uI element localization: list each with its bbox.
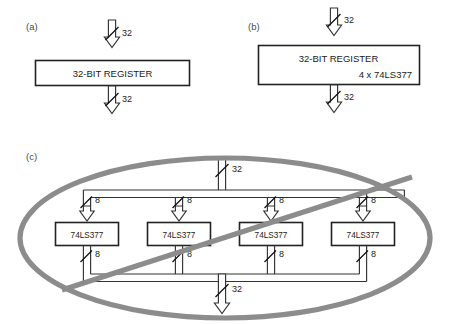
chip-4-input-width: 8 [371,195,376,205]
panel-c-chip-output-buses: 8 8 8 8 [81,246,377,282]
chip-3-label: 74LS377 [255,231,288,240]
figure-root: (a) 32 32-BIT REGISTER 32 (b) [0,0,449,324]
panel-a-output-bus-label: 32 [122,94,132,104]
chip-3-input-width: 8 [279,195,284,205]
panel-b-label: (b) [248,21,260,32]
chip-1-input-width: 8 [95,195,100,205]
chip-box-2: 74LS377 [148,223,211,246]
panel-c-input-bus: 32 [216,158,243,190]
chip-4-output-width: 8 [371,249,376,259]
panel-c-output-bus-label: 32 [232,284,242,294]
panel-a-input-bus: 32 [104,20,132,48]
panel-a: (a) 32 32-BIT REGISTER 32 [26,20,190,114]
chip-1-output-width: 8 [95,249,100,259]
panel-a-label: (a) [26,21,38,32]
panel-c-output-bus: 32 [214,274,242,314]
panel-a-output-bus: 32 [104,86,132,114]
chip-box-4: 74LS377 [332,223,395,246]
chip-3-output-width: 8 [279,249,284,259]
chip-4-label: 74LS377 [347,231,380,240]
panel-b-output-bus: 32 [326,85,354,113]
panel-b-input-bus: 32 [326,8,354,36]
panel-a-register-label: 32-BIT REGISTER [73,68,153,79]
panel-c-label: (c) [26,151,37,162]
panel-b-output-bus-label: 32 [344,92,354,102]
chip-3-output: 8 [265,246,285,275]
chip-box-3: 74LS377 [240,223,303,246]
panel-b: (b) 32 32-BIT REGISTER 4 x 74LS377 32 [248,8,420,113]
panel-c: (c) 32 [20,151,430,318]
chip-2-label: 74LS377 [163,231,196,240]
chip-2-input-width: 8 [187,195,192,205]
chip-box-1: 74LS377 [56,223,119,246]
chip-1-label: 74LS377 [71,231,104,240]
panel-c-chip-input-arrows: 8 8 8 8 [80,195,376,221]
panel-b-register-box: 32-BIT REGISTER 4 x 74LS377 [259,46,420,85]
chip-4-output: 8 [357,246,377,282]
panel-c-chips: 74LS377 74LS377 74LS377 74LS377 [56,223,395,246]
panel-b-register-label: 32-BIT REGISTER [299,53,379,64]
panel-c-input-bus-label: 32 [232,164,242,174]
panel-b-register-sublabel: 4 x 74LS377 [359,69,412,80]
panel-b-input-bus-label: 32 [344,15,354,25]
panel-a-input-bus-label: 32 [122,28,132,38]
panel-a-register-box: 32-BIT REGISTER [36,61,190,86]
